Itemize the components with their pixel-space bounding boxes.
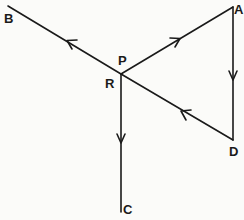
diagram-canvas: B A P R D C — [0, 0, 244, 220]
node-label-b: B — [4, 12, 13, 25]
edge-p-to-a — [121, 7, 233, 74]
node-label-r: R — [105, 77, 114, 90]
node-label-a: A — [234, 3, 243, 16]
node-label-p: P — [118, 54, 127, 67]
edge-d-to-p — [121, 74, 233, 140]
path-diagram — [0, 0, 244, 220]
node-label-d: D — [229, 145, 238, 158]
node-label-c: C — [123, 203, 132, 216]
edge-p-to-b — [8, 6, 121, 74]
